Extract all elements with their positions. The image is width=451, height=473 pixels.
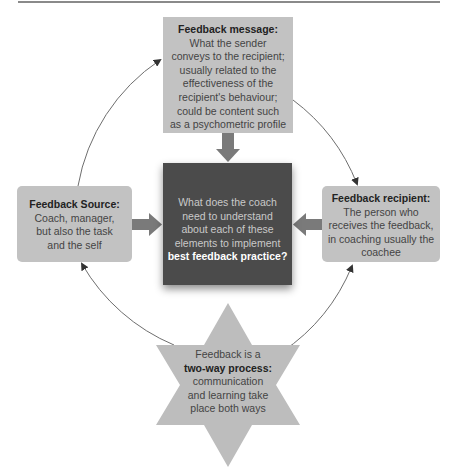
feedback-message-line: conveys to the recipient; xyxy=(165,50,291,64)
central-question-line: about each of these xyxy=(167,223,288,237)
cycle-arc-left-top xyxy=(78,60,160,186)
feedback-recipient-heading: Feedback recipient: xyxy=(324,192,438,206)
feedback-message-heading: Feedback message: xyxy=(165,23,291,37)
feedback-message-line: recipient's behaviour; xyxy=(165,91,291,105)
feedback-message-line: usually related to the xyxy=(165,64,291,78)
central-question-box: What does the coach need to understand a… xyxy=(163,163,292,285)
cycle-arc-top-right xyxy=(293,100,357,184)
feedback-message-line: effectiveness of the xyxy=(165,77,291,91)
feedback-message-line: could be content such xyxy=(165,105,291,119)
star-line: communication xyxy=(170,375,286,389)
star-line: Feedback is a xyxy=(170,348,286,362)
feedback-recipient-box: Feedback recipient: The person who recei… xyxy=(322,186,440,262)
central-question-emphasis: best feedback practice? xyxy=(167,250,288,264)
feedback-source-line: and the self xyxy=(19,239,130,253)
feedback-source-heading: Feedback Source: xyxy=(19,198,130,212)
cycle-arc-bottom-left xyxy=(82,264,174,345)
feedback-message-line: What the sender xyxy=(165,37,291,51)
arrow-left-icon xyxy=(293,213,322,236)
feedback-recipient-line: in coaching usually the xyxy=(324,233,438,247)
star-emphasis: two-way process: xyxy=(170,362,286,376)
central-question-line: What does the coach xyxy=(167,196,288,210)
arrow-right-icon xyxy=(132,213,162,236)
central-question-line: need to understand xyxy=(167,210,288,224)
feedback-recipient-line: The person who xyxy=(324,206,438,220)
feedback-recipient-line: receives the feedback, xyxy=(324,219,438,233)
feedback-source-line: but also the task xyxy=(19,225,130,239)
feedback-source-box: Feedback Source: Coach, manager, but als… xyxy=(17,186,132,262)
two-way-process-text: Feedback is a two-way process: communica… xyxy=(170,348,286,416)
feedback-source-line: Coach, manager, xyxy=(19,212,130,226)
feedback-message-box: Feedback message: What the sender convey… xyxy=(163,17,293,133)
arrow-down-icon xyxy=(216,133,240,162)
central-question-line: elements to implement xyxy=(167,237,288,251)
cycle-arc-bottom-right xyxy=(282,266,352,352)
feedback-message-line: as a psychometric profile xyxy=(165,118,291,132)
star-line: place both ways xyxy=(170,402,286,416)
feedback-recipient-line: coachee xyxy=(324,246,438,260)
star-line: and learning take xyxy=(170,389,286,403)
